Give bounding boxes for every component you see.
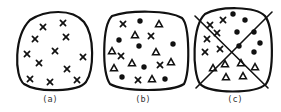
cross-marker-icon [27, 76, 32, 81]
dot-marker-icon [251, 49, 256, 54]
triangle-marker-icon [156, 21, 163, 27]
dot-marker-icon [116, 37, 121, 42]
cross-marker-icon [135, 77, 140, 82]
cross-marker-icon [63, 34, 68, 39]
cross-marker-icon [214, 30, 219, 35]
triangle-marker-icon [132, 32, 139, 38]
dot-marker-icon [236, 43, 241, 48]
dot-marker-icon [170, 41, 175, 46]
diagram-canvas: (a)(b)(c) [0, 0, 281, 112]
triangle-marker-icon [149, 76, 156, 82]
cross-marker-icon [40, 24, 45, 29]
panel-a: (a) [17, 12, 92, 104]
cross-marker-icon [74, 77, 79, 82]
cross-marker-icon [202, 49, 207, 54]
cross-marker-icon [60, 20, 65, 25]
triangle-marker-icon [111, 65, 118, 71]
dot-marker-icon [119, 74, 124, 79]
triangle-marker-icon [210, 65, 217, 71]
region-outline [104, 12, 188, 90]
cross-marker-icon [204, 36, 209, 41]
cross-marker-icon [207, 22, 212, 27]
dot-marker-icon [242, 17, 247, 22]
dot-marker-icon [162, 76, 167, 81]
figure: (a)(b)(c) [0, 0, 281, 112]
panel-c: (c) [195, 8, 272, 104]
dot-marker-icon [234, 29, 239, 34]
triangle-marker-icon [129, 60, 136, 66]
triangle-marker-icon [109, 48, 116, 54]
cross-marker-icon [148, 33, 153, 38]
dot-marker-icon [136, 43, 141, 48]
dot-marker-icon [230, 11, 235, 16]
cross-marker-icon [36, 60, 41, 65]
dot-marker-icon [257, 40, 262, 45]
triangle-marker-icon [240, 73, 247, 79]
panel-b: (b) [104, 12, 188, 104]
triangle-marker-icon [153, 49, 160, 55]
triangle-marker-icon [223, 74, 230, 80]
cross-marker-icon [32, 36, 37, 41]
cross-marker-icon [80, 54, 85, 59]
cross-marker-icon [220, 17, 225, 22]
cross-marker-icon [52, 48, 57, 53]
panel-label: (a) [42, 94, 57, 104]
dot-marker-icon [141, 64, 146, 69]
triangle-marker-icon [168, 59, 175, 65]
panel-label: (b) [135, 94, 150, 104]
cross-marker-icon [120, 21, 125, 26]
dot-marker-icon [251, 29, 256, 34]
cross-marker-icon [217, 46, 222, 51]
dot-marker-icon [137, 18, 142, 23]
panel-label: (c) [227, 94, 242, 104]
triangle-marker-icon [252, 64, 259, 70]
cross-marker-icon [64, 66, 69, 71]
cross-marker-icon [24, 51, 29, 56]
cross-marker-icon [118, 53, 123, 58]
cross-marker-icon [157, 62, 162, 67]
triangle-marker-icon [238, 60, 245, 66]
cross-marker-icon [47, 79, 52, 84]
